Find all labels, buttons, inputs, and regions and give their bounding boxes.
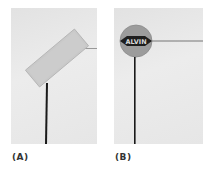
photo-panel-a	[11, 8, 97, 144]
panel-label-b: (B)	[115, 152, 132, 162]
round-sign: ALVIN	[114, 8, 203, 144]
photo-panel-b: ALVIN	[114, 8, 203, 144]
emblem-text: ALVIN	[125, 38, 146, 46]
panel-label-a: (A)	[12, 152, 29, 162]
tilted-rectangle-sign	[11, 8, 97, 144]
